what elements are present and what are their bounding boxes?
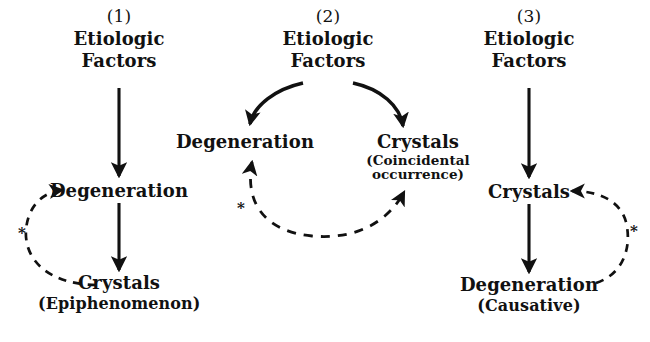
panel-3-crystals: Crystals: [484, 183, 574, 201]
panel-3-asterisk-marker: *: [630, 224, 638, 239]
panel-3-etiologic-factors-line2: Factors: [469, 52, 589, 70]
panel-1-crystals-qualifier: (Epiphenomenon): [38, 296, 200, 312]
panel-2-etiologic-factors-line2: Factors: [268, 52, 388, 70]
panel-2-crystals: Crystals: [373, 133, 463, 151]
panel-2-asterisk-marker: *: [237, 201, 245, 216]
panel-3-degeneration: Degeneration: [454, 276, 604, 294]
panel-1-etiologic-factors-line2: Factors: [59, 52, 179, 70]
panel-1-etiologic-factors-line1: Etiologic: [59, 30, 179, 48]
panel-1-crystals: Crystals: [74, 274, 164, 292]
panel-1-degeneration: Degeneration: [44, 182, 194, 200]
panel-2-number: (2): [298, 8, 358, 25]
panel-3-etiologic-factors-line1: Etiologic: [469, 30, 589, 48]
panel-2-crystals-qualifier-line2: occurrence): [358, 167, 478, 182]
panel-3-degeneration-qualifier: (Causative): [469, 298, 589, 314]
panel-3-number: (3): [499, 8, 559, 25]
figure-canvas: (1) Etiologic Factors Degeneration Cryst…: [0, 0, 650, 342]
panel-2-degeneration: Degeneration: [170, 133, 320, 151]
panel-1-number: (1): [89, 8, 149, 25]
panel-2-etiologic-factors-line1: Etiologic: [268, 30, 388, 48]
panel-3-dashed-feedback-loop: [572, 191, 628, 283]
panel-1-asterisk-marker: *: [18, 226, 26, 241]
panel-2-arrow-factors-to-crystals: [353, 83, 403, 126]
panel-1-dashed-feedback-loop: [26, 190, 96, 285]
panel-2-arrow-factors-to-degeneration: [250, 83, 303, 124]
